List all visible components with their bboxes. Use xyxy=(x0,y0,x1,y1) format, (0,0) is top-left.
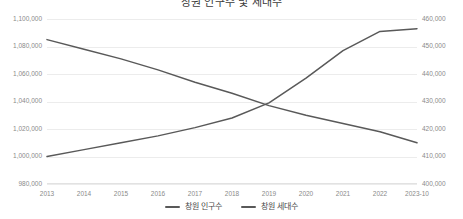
x-axis-tick-label: 2015 xyxy=(114,191,128,198)
x-axis-tick-label: 2021 xyxy=(336,191,350,198)
left-axis-tick-label: 980,000 xyxy=(19,181,43,188)
legend-item[interactable]: 창원 인구수 xyxy=(165,203,222,211)
legend-line-icon xyxy=(241,206,256,208)
chart-legend: 창원 인구수창원 세대수 xyxy=(0,203,463,211)
chart-container: 창원 인구수 및 세대수 980,0001,000,0001,020,0001,… xyxy=(0,0,463,219)
x-axis-tick-label: 2019 xyxy=(262,191,276,198)
legend-line-icon xyxy=(165,206,180,208)
left-axis-tick-label: 1,080,000 xyxy=(13,43,42,50)
x-axis-tick-label: 2020 xyxy=(299,191,313,198)
left-axis-tick-label: 1,060,000 xyxy=(13,71,42,78)
x-axis-tick-label: 2023-10 xyxy=(405,191,429,198)
left-axis-tick-label: 1,000,000 xyxy=(13,153,42,160)
right-axis-tick-label: 440,000 xyxy=(422,71,446,78)
left-axis-tick-label: 1,020,000 xyxy=(13,126,42,133)
legend-label: 창원 세대수 xyxy=(261,203,298,211)
plot-area: 980,0001,000,0001,020,0001,040,0001,060,… xyxy=(47,19,417,184)
right-axis-tick-label: 420,000 xyxy=(422,126,446,133)
x-axis-tick-label: 2017 xyxy=(188,191,202,198)
right-axis-tick-label: 410,000 xyxy=(422,153,446,160)
chart-title: 창원 인구수 및 세대수 xyxy=(0,0,463,9)
x-axis-tick-label: 2022 xyxy=(373,191,387,198)
right-axis-tick-label: 400,000 xyxy=(422,181,446,188)
series-layer xyxy=(47,19,417,184)
x-axis-tick-label: 2014 xyxy=(77,191,91,198)
x-axis-tick-label: 2018 xyxy=(225,191,239,198)
right-axis-tick-label: 430,000 xyxy=(422,98,446,105)
gridline xyxy=(47,184,417,185)
legend-item[interactable]: 창원 세대수 xyxy=(241,203,298,211)
legend-label: 창원 인구수 xyxy=(185,203,222,211)
right-axis-tick-label: 450,000 xyxy=(422,43,446,50)
right-axis-tick-label: 460,000 xyxy=(422,16,446,23)
left-axis-tick-label: 1,040,000 xyxy=(13,98,42,105)
series-line xyxy=(47,40,417,143)
left-axis-tick-label: 1,100,000 xyxy=(13,16,42,23)
x-axis-tick-label: 2013 xyxy=(40,191,54,198)
x-axis-tick-label: 2016 xyxy=(151,191,165,198)
